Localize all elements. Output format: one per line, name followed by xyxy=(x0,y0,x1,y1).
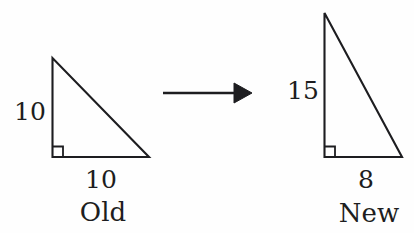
old-triangle-name-label: Old xyxy=(80,199,126,225)
new-triangle-group xyxy=(325,13,403,157)
arrow-right-icon xyxy=(163,83,252,103)
new-triangle-vertical-leg-label: 15 xyxy=(287,78,319,103)
old-right-angle-marker xyxy=(53,147,64,158)
old-triangle-horizontal-leg-label: 10 xyxy=(85,167,117,192)
new-right-angle-marker xyxy=(325,147,336,158)
old-triangle-group xyxy=(53,58,150,157)
new-triangle-name-label: New xyxy=(339,200,399,226)
new-triangle-horizontal-leg-label: 8 xyxy=(358,167,374,192)
diagram-canvas: 10 10 Old 15 8 New xyxy=(0,0,414,233)
old-triangle-outline xyxy=(53,58,150,157)
old-triangle-vertical-leg-label: 10 xyxy=(14,99,46,124)
new-triangle-outline xyxy=(325,13,403,157)
arrow-head xyxy=(234,83,252,103)
